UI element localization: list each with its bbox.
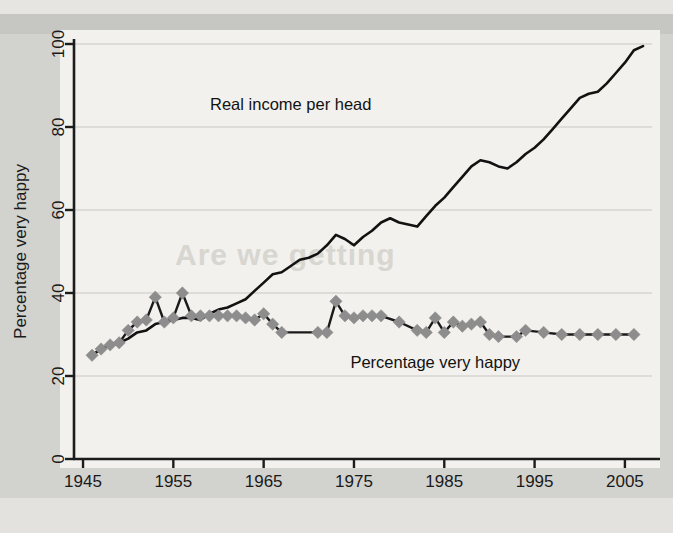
data-point-marker [393, 316, 405, 328]
chart-svg: 020406080100 194519551965197519851995200… [0, 0, 673, 533]
data-point-marker [176, 287, 188, 299]
data-point-marker [537, 326, 549, 338]
x-tick-label: 1975 [335, 472, 373, 491]
x-axis-ticks [83, 459, 625, 468]
series-layer [92, 46, 643, 355]
data-point-marker [140, 314, 152, 326]
x-tick-label: 1995 [516, 472, 554, 491]
x-tick-label: 2005 [606, 472, 644, 491]
data-point-marker [574, 328, 586, 340]
data-point-marker [465, 318, 477, 330]
data-point-marker [348, 312, 360, 324]
data-point-marker [610, 328, 622, 340]
data-point-marker [375, 310, 387, 322]
x-tick-label: 1945 [64, 472, 102, 491]
data-point-marker [555, 328, 567, 340]
y-tick-label: 80 [49, 118, 68, 137]
data-point-marker [429, 312, 441, 324]
series-line-real-income [92, 46, 643, 355]
y-axis-title: Percentage very happy [11, 164, 30, 339]
data-point-marker [230, 310, 242, 322]
y-tick-label: 40 [49, 284, 68, 303]
x-tick-label: 1985 [425, 472, 463, 491]
y-axis-ticks [65, 44, 74, 459]
figure-container: Are we getting 020406080100 194519551965… [0, 0, 673, 533]
markers-layer [86, 287, 640, 362]
data-point-marker [492, 330, 504, 342]
y-tick-label: 20 [49, 367, 68, 386]
data-point-marker [628, 328, 640, 340]
annotation-percentage-happy: Percentage very happy [350, 353, 520, 371]
y-tick-labels: 020406080100 [49, 30, 68, 464]
x-tick-label: 1955 [154, 472, 192, 491]
y-tick-label: 100 [49, 30, 68, 58]
data-point-marker [330, 295, 342, 307]
y-tick-label: 0 [49, 454, 68, 463]
x-tick-labels: 1945195519651975198519952005 [64, 472, 644, 491]
data-point-marker [239, 312, 251, 324]
data-point-marker [420, 326, 432, 338]
data-point-marker [339, 310, 351, 322]
y-tick-label: 60 [49, 201, 68, 220]
x-tick-label: 1965 [245, 472, 283, 491]
data-point-marker [592, 328, 604, 340]
data-point-marker [411, 324, 423, 336]
gridlines [74, 44, 652, 376]
annotation-real-income: Real income per head [210, 95, 371, 113]
data-point-marker [321, 326, 333, 338]
